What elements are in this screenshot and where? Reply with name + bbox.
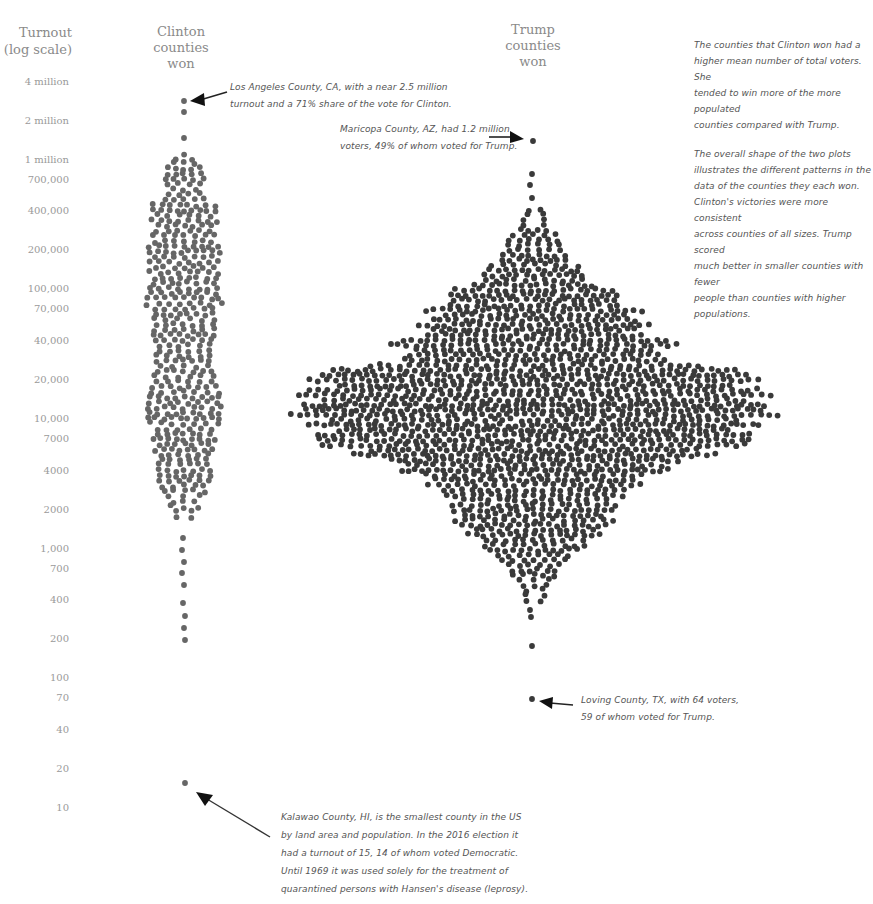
commentary-line: illustrates the different patterns in th… [694,162,873,178]
annotation-line: 59 of whom voted for Trump. [581,709,739,726]
commentary-line: tended to win more of the more populated [694,85,873,117]
commentary-line: The counties that Clinton won had a [694,37,873,53]
annotation-line: by land area and population. In the 2016… [281,826,528,844]
annotation-line: Los Angeles County, CA, with a near 2.5 … [230,79,452,96]
annotation-los-angeles: Los Angeles County, CA, with a near 2.5 … [230,79,452,113]
annotation-line: turnout and a 71% share of the vote for … [230,96,452,113]
commentary-line: across counties of all sizes. Trump scor… [694,226,873,258]
commentary-para2: The overall shape of the two plots illus… [694,146,873,322]
loving-arrow-icon [539,697,573,709]
commentary-line: Clinton's victories were more consistent [694,194,873,226]
annotation-line: voters, 49% of whom voted for Trump. [340,138,517,155]
annotation-line: Loving County, TX, with 64 voters, [581,692,739,709]
annotation-line: Until 1969 it was used solely for the tr… [281,862,528,880]
commentary-line: people than counties with higher populat… [694,290,873,322]
annotation-loving: Loving County, TX, with 64 voters, 59 of… [581,692,739,726]
annotation-maricopa: Maricopa County, AZ, had 1.2 million vot… [340,121,517,155]
commentary-line: counties compared with Trump. [694,117,873,133]
commentary-line: data of the counties they each won. [694,178,873,194]
commentary-line: The overall shape of the two plots [694,146,873,162]
la-arrow-icon [190,92,227,106]
commentary-para1: The counties that Clinton won had a high… [694,37,873,133]
clinton-dots [144,98,225,786]
annotation-line: quarantined persons with Hansen's diseas… [281,880,528,898]
annotation-line: had a turnout of 15, 14 of whom voted De… [281,844,528,862]
annotation-kalawao: Kalawao County, HI, is the smallest coun… [281,808,528,898]
commentary-line: much better in smaller counties with few… [694,258,873,290]
kalawao-arrow-icon [196,792,270,837]
annotation-line: Maricopa County, AZ, had 1.2 million [340,121,517,138]
commentary: The counties that Clinton won had a high… [694,37,873,322]
annotation-line: Kalawao County, HI, is the smallest coun… [281,808,528,826]
commentary-line: higher mean number of total voters. She [694,53,873,85]
